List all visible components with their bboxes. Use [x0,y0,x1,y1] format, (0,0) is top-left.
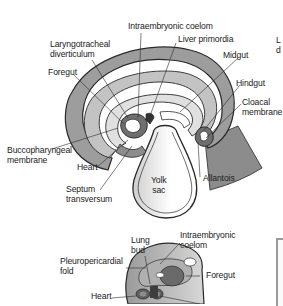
side-text-fragment: Ld [276,36,281,55]
adjacent-panel-border [276,238,283,306]
label-septum-transversum: Septumtransversum [66,185,112,204]
label-heart-lower: Heart [91,292,112,302]
label-lung-bud: Lungbud [131,236,150,255]
label-yolk-sac: Yolksac [151,176,167,195]
label-foregut-lower: Foregut [206,271,235,281]
label-cloacal-membrane: Cloacalmembrane [242,98,282,117]
label-allantois: Allantois [203,174,235,184]
label-intraembryonic-coelom: Intraembryonic coelom [128,22,213,32]
label-laryngotracheal-diverticulum: Laryngotrachealdiverticulum [50,40,110,59]
label-heart-upper: Heart [77,163,98,173]
label-pleuropericardial-fold: Pleuropericardialfold [60,257,123,276]
label-intraembryonic-coelom-lower: Intraembryoniccoelom [180,231,235,250]
label-foregut-upper: Foregut [48,68,77,78]
heart-region [116,144,146,157]
label-midgut: Midgut [223,51,248,61]
label-hindgut: Hindgut [236,79,265,89]
label-liver-primordia: Liver primordia [178,35,233,45]
label-buccopharyngeal-membrane: Buccopharyngealmembrane [7,146,72,165]
yolk-sac [133,126,197,219]
